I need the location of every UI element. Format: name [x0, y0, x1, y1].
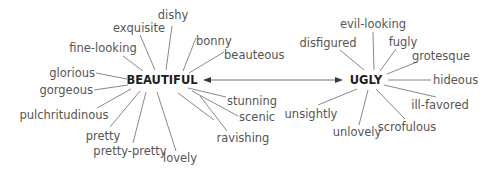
hub-label-ugly: UGLY	[350, 73, 383, 87]
synonym-scrofulous: scrofulous	[378, 120, 437, 134]
spoke-dishy	[166, 26, 172, 70]
synonym-unsightly: unsightly	[285, 107, 338, 121]
spoke-glorious	[96, 73, 127, 79]
spoke-ravishing	[200, 96, 227, 131]
synonym-pulchritudinous: pulchritudinous	[19, 108, 108, 122]
synonym-fugly: fugly	[389, 35, 418, 49]
word-map-diagram: BEAUTIFUL UGLY dishy exquisite bonny fin…	[0, 0, 495, 182]
spoke-stunning	[188, 88, 226, 97]
spoke-pretty	[110, 91, 140, 127]
spoke-evil-looking	[373, 32, 374, 70]
spoke-gorgeous	[94, 85, 128, 90]
synonym-lovely: lovely	[163, 151, 197, 165]
synonym-evil-looking: evil-looking	[340, 17, 406, 31]
spoke-beauteous	[189, 52, 224, 73]
synonym-ravishing: ravishing	[217, 131, 270, 145]
synonym-pretty: pretty	[86, 129, 121, 143]
synonym-bonny: bonny	[196, 34, 232, 48]
synonym-stunning: stunning	[227, 94, 277, 108]
spoke-fine-looking	[123, 56, 143, 71]
synonym-disfigured: disfigured	[299, 36, 356, 50]
synonym-ill-favored: ill-favored	[411, 98, 469, 112]
spoke-exquisite	[140, 35, 155, 70]
arrowhead-left-icon	[203, 77, 211, 83]
spoke-unsightly	[318, 89, 357, 105]
spoke-ill-favored	[384, 85, 436, 97]
spoke-fugly	[380, 49, 396, 71]
synonym-grotesque: grotesque	[412, 49, 470, 63]
synonym-exquisite: exquisite	[113, 21, 165, 35]
synonym-fine-looking: fine-looking	[69, 41, 136, 55]
spoke-unlovely	[359, 90, 368, 125]
synonym-pretty-pretty: pretty-pretty	[93, 144, 166, 158]
hub-label-beautiful: BEAUTIFUL	[126, 73, 198, 87]
spoke-disfigured	[340, 50, 364, 70]
synonym-dishy: dishy	[158, 8, 189, 22]
spoke-grotesque	[387, 62, 417, 74]
synonym-beauteous: beauteous	[224, 48, 285, 62]
synonym-hideous: hideous	[433, 73, 478, 87]
synonym-glorious: glorious	[49, 66, 95, 80]
arrowhead-right-icon	[335, 77, 343, 83]
spoke-bonny	[183, 38, 196, 71]
synonym-scenic: scenic	[239, 110, 275, 124]
spoke-lovely	[157, 92, 176, 151]
synonym-gorgeous: gorgeous	[39, 83, 93, 97]
synonym-unlovely: unlovely	[333, 125, 382, 139]
spoke-pulchritudinous	[97, 89, 131, 108]
spoke-pretty-pretty	[133, 92, 146, 143]
spoke-scrofulous	[376, 89, 405, 119]
